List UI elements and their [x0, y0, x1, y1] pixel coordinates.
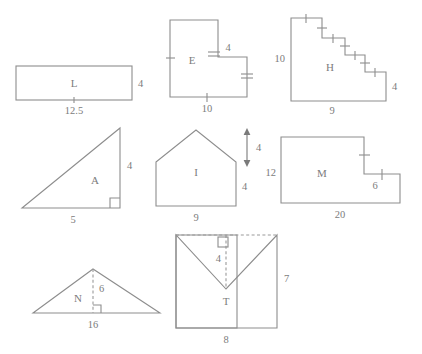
- shape-A-right-angle-marker: [110, 198, 120, 208]
- shape-T: T 4 7 8: [176, 235, 289, 345]
- shape-T-dim-right: 7: [284, 273, 289, 284]
- shape-T-dim-depth: 4: [216, 253, 222, 264]
- shape-H: H 10 4 9: [275, 14, 399, 116]
- shape-L: L 12.5 4: [16, 66, 144, 116]
- shape-H-label: H: [326, 61, 334, 73]
- shape-A-outline: [22, 128, 120, 208]
- shape-I-dim-bottom: 9: [193, 212, 198, 223]
- shape-T-outline: [176, 235, 277, 328]
- shape-N-dim-bottom: 16: [88, 319, 99, 330]
- shape-T-bounds: [176, 235, 237, 328]
- shape-M: M 12 6 20: [266, 137, 401, 220]
- shape-A-label: A: [91, 174, 99, 186]
- shape-A-dim-right: 4: [127, 160, 133, 171]
- shape-A: A 4 5: [22, 128, 133, 225]
- shape-I: I 4 4 9: [156, 128, 262, 223]
- shape-H-dim-bottom: 9: [329, 105, 334, 116]
- shape-E: E 4 10: [166, 20, 253, 114]
- shape-M-dim-notch: 6: [372, 180, 377, 191]
- shape-N-label: N: [74, 292, 82, 304]
- shape-N-outline: [33, 269, 160, 313]
- shape-I-dim-roof: 4: [256, 142, 262, 153]
- shape-M-dim-left: 12: [266, 167, 277, 178]
- shape-H-dim-left: 10: [275, 53, 286, 64]
- shape-I-arrow-head-down: [244, 160, 251, 167]
- shape-E-outline: [170, 20, 247, 97]
- shape-L-dim-bottom: 12.5: [65, 105, 83, 116]
- shape-I-dim-right: 4: [242, 181, 248, 192]
- shape-E-dim-bottom: 10: [202, 103, 213, 114]
- shape-H-dim-right: 4: [392, 81, 398, 92]
- shape-E-dim-inner: 4: [225, 42, 231, 53]
- shape-A-dim-bottom: 5: [70, 214, 75, 225]
- shape-T-label: T: [223, 295, 230, 307]
- shape-M-label: M: [317, 167, 327, 179]
- shape-N: N 6 16: [33, 269, 160, 330]
- shape-M-dim-bottom: 20: [335, 209, 346, 220]
- shape-L-label: L: [71, 77, 78, 89]
- shape-H-outline: [291, 18, 386, 101]
- shape-N-dim-height: 6: [99, 283, 104, 294]
- shape-L-dim-right: 4: [138, 78, 144, 89]
- shape-T-dim-bottom: 8: [223, 334, 228, 345]
- shape-E-label: E: [189, 54, 196, 66]
- shape-I-label: I: [194, 166, 198, 178]
- shape-I-arrow-head-up: [244, 128, 251, 135]
- shape-N-right-angle-marker: [93, 305, 101, 313]
- geometry-worksheet: L 12.5 4 E 4 10 H 10 4 9: [0, 0, 422, 354]
